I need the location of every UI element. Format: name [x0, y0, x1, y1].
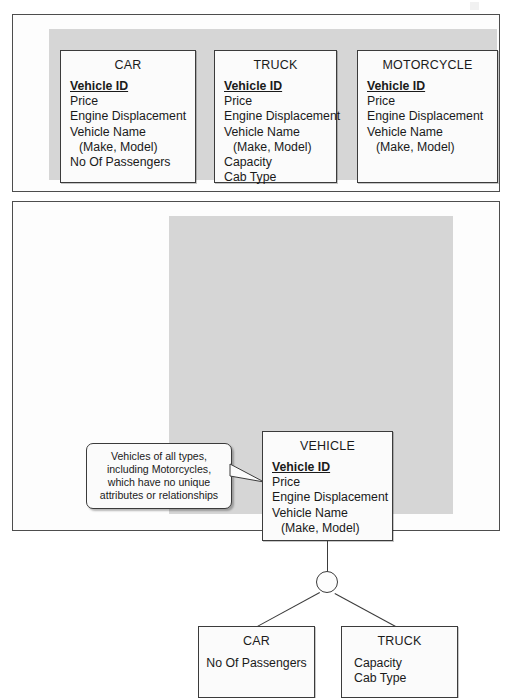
- attribute: Price: [272, 475, 392, 490]
- callout-line: including Motorcycles,: [100, 463, 218, 476]
- attribute: Price: [367, 94, 497, 109]
- callout-line: which have no unique: [100, 476, 218, 489]
- callout-tail: [230, 464, 264, 484]
- attribute: Vehicle Name: [367, 125, 497, 140]
- attribute: Capacity: [224, 155, 336, 170]
- callout-line: Vehicles of all types,: [100, 450, 218, 463]
- attribute-composite-part: (Make, Model): [367, 140, 497, 155]
- attribute: No Of Passengers: [199, 656, 314, 671]
- callout-bubble: Vehicles of all types, including Motorcy…: [86, 443, 232, 509]
- entity-title: MOTORCYCLE: [358, 51, 497, 73]
- attribute: Price: [224, 94, 336, 109]
- attribute: No Of Passengers: [70, 155, 195, 170]
- attribute: Engine Displacement: [70, 109, 195, 124]
- entity-box-truck-standalone[interactable]: TRUCK Vehicle ID Price Engine Displaceme…: [214, 50, 337, 183]
- attribute: Price: [70, 94, 195, 109]
- entity-title: TRUCK: [342, 627, 457, 649]
- attribute: Engine Displacement: [367, 109, 497, 124]
- attribute-list: Vehicle ID Price Engine Displacement Veh…: [263, 454, 392, 536]
- generalisation-circle-icon: [316, 571, 338, 593]
- entity-box-car-standalone[interactable]: CAR Vehicle ID Price Engine Displacement…: [60, 50, 196, 183]
- connector-line-vertical: [327, 541, 328, 574]
- attribute-primary-key: Vehicle ID: [70, 79, 195, 94]
- attribute-list: Vehicle ID Price Engine Displacement Veh…: [358, 73, 497, 155]
- attribute-list: Vehicle ID Price Engine Displacement Veh…: [215, 73, 336, 185]
- scan-artifact: [470, 2, 479, 10]
- attribute-primary-key: Vehicle ID: [367, 79, 497, 94]
- entity-title: CAR: [199, 627, 314, 649]
- entity-box-car-subtype[interactable]: CAR No Of Passengers: [198, 626, 315, 698]
- attribute: Vehicle Name: [70, 125, 195, 140]
- attribute: Cab Type: [354, 671, 457, 686]
- attribute-primary-key: Vehicle ID: [224, 79, 336, 94]
- entity-title: CAR: [61, 51, 195, 73]
- entity-title: VEHICLE: [263, 432, 392, 454]
- attribute-composite-part: (Make, Model): [272, 521, 392, 536]
- attribute-list: Capacity Cab Type: [342, 649, 457, 686]
- entity-title: TRUCK: [215, 51, 336, 73]
- entity-box-vehicle-supertype[interactable]: VEHICLE Vehicle ID Price Engine Displace…: [262, 431, 393, 541]
- attribute: Cab Type: [224, 170, 336, 185]
- attribute: Vehicle Name: [224, 125, 336, 140]
- attribute: Vehicle Name: [272, 506, 392, 521]
- separate-entities-panel: CAR Vehicle ID Price Engine Displacement…: [12, 14, 500, 192]
- attribute: Capacity: [354, 656, 457, 671]
- attribute: Engine Displacement: [272, 490, 392, 505]
- connector-line-to-truck: [335, 593, 401, 629]
- generalised-hierarchy-panel: Vehicles of all types, including Motorcy…: [12, 201, 500, 531]
- attribute: Engine Displacement: [224, 109, 336, 124]
- attribute-composite-part: (Make, Model): [224, 140, 336, 155]
- attribute-list: No Of Passengers: [199, 649, 314, 671]
- attribute-primary-key: Vehicle ID: [272, 460, 392, 475]
- callout-line: attributes or relationships: [100, 489, 218, 502]
- entity-box-motorcycle-standalone[interactable]: MOTORCYCLE Vehicle ID Price Engine Displ…: [357, 50, 498, 183]
- callout-text: Vehicles of all types, including Motorcy…: [94, 450, 224, 503]
- connector-line-to-car: [254, 592, 320, 628]
- entity-box-truck-subtype[interactable]: TRUCK Capacity Cab Type: [341, 626, 458, 698]
- attribute-list: Vehicle ID Price Engine Displacement Veh…: [61, 73, 195, 170]
- attribute-composite-part: (Make, Model): [70, 140, 195, 155]
